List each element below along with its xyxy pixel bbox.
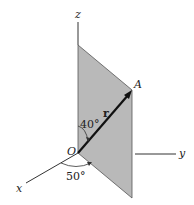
vector-r-label: r — [103, 107, 109, 120]
origin-label: O — [67, 145, 76, 158]
z-axis-label: z — [74, 8, 81, 21]
x-axis-label: x — [16, 182, 23, 195]
y-axis-label: y — [178, 147, 186, 160]
vector-diagram: z x y r A O 40° 50° — [0, 0, 194, 205]
angle-arc-50 — [61, 163, 91, 167]
angle-50-label: 50° — [66, 170, 86, 183]
point-a-label: A — [133, 78, 142, 91]
angle-40-label: 40° — [80, 118, 100, 131]
